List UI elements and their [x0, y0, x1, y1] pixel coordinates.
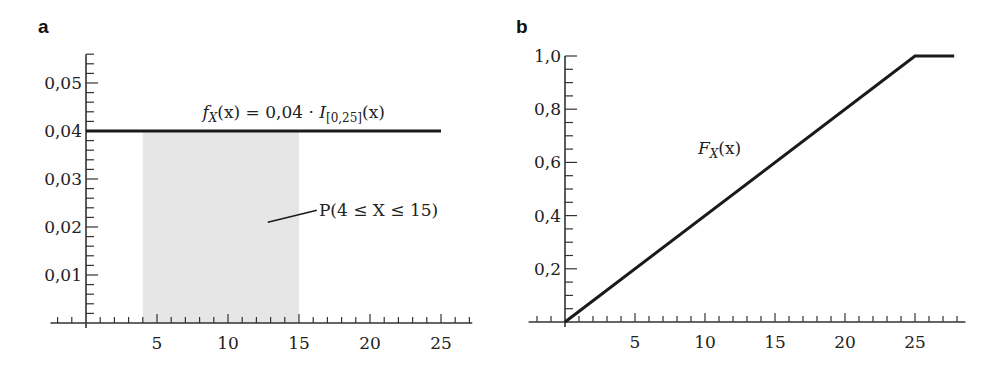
x-tick-label: 10	[694, 332, 716, 352]
y-tick-label: 0,04	[44, 121, 82, 141]
x-tick-label: 15	[288, 333, 310, 353]
y-tick-label: 0,02	[44, 217, 82, 237]
x-tick-label: 15	[764, 332, 786, 352]
x-tick-label: 25	[904, 332, 926, 352]
x-tick-label: 20	[834, 332, 856, 352]
x-tick-label: 25	[430, 333, 452, 353]
pdf-label: fX(x) = 0,04 · I[0,25](x)	[200, 102, 384, 125]
chart-a: a 5101520250,010,020,030,040,05 fX(x) = …	[38, 16, 472, 353]
panel-label-b: b	[516, 16, 528, 37]
probability-label: P(4 ≤ X ≤ 15)	[319, 200, 438, 220]
y-tick-label: 0,2	[534, 259, 561, 279]
y-tick-label: 0,4	[534, 206, 561, 226]
x-tick-label: 10	[217, 333, 239, 353]
cdf-line	[565, 56, 954, 322]
x-tick-label: 20	[359, 333, 381, 353]
y-tick-label: 0,05	[44, 73, 82, 93]
y-tick-label: 0,8	[534, 99, 561, 119]
cdf-label: FX(x)	[697, 138, 741, 161]
probability-shaded-area	[143, 131, 299, 323]
y-tick-label: 0,01	[44, 265, 82, 285]
y-tick-label: 0,6	[534, 152, 561, 172]
panel-label-a: a	[38, 16, 49, 37]
x-tick-label: 5	[152, 333, 163, 353]
x-tick-label: 5	[630, 332, 641, 352]
y-tick-label: 1,0	[534, 46, 561, 66]
chart-b-axes: 5101520250,20,40,60,81,0	[529, 46, 966, 352]
figure: a 5101520250,010,020,030,040,05 fX(x) = …	[0, 0, 1000, 369]
y-tick-label: 0,03	[44, 169, 82, 189]
chart-b: b 5101520250,20,40,60,81,0 FX(x)	[516, 16, 965, 352]
